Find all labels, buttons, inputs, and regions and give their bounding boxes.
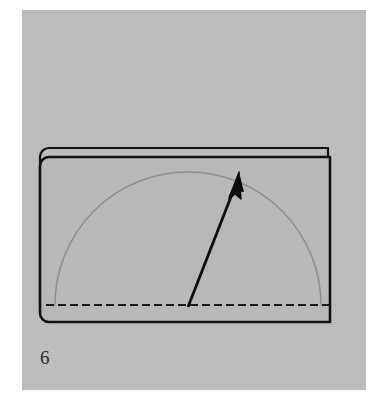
- origami-step-diagram: 6: [0, 0, 366, 411]
- step-number-label: 6: [40, 348, 50, 367]
- figure-vector-layer: [0, 0, 366, 411]
- paper-front-layer: [40, 157, 330, 322]
